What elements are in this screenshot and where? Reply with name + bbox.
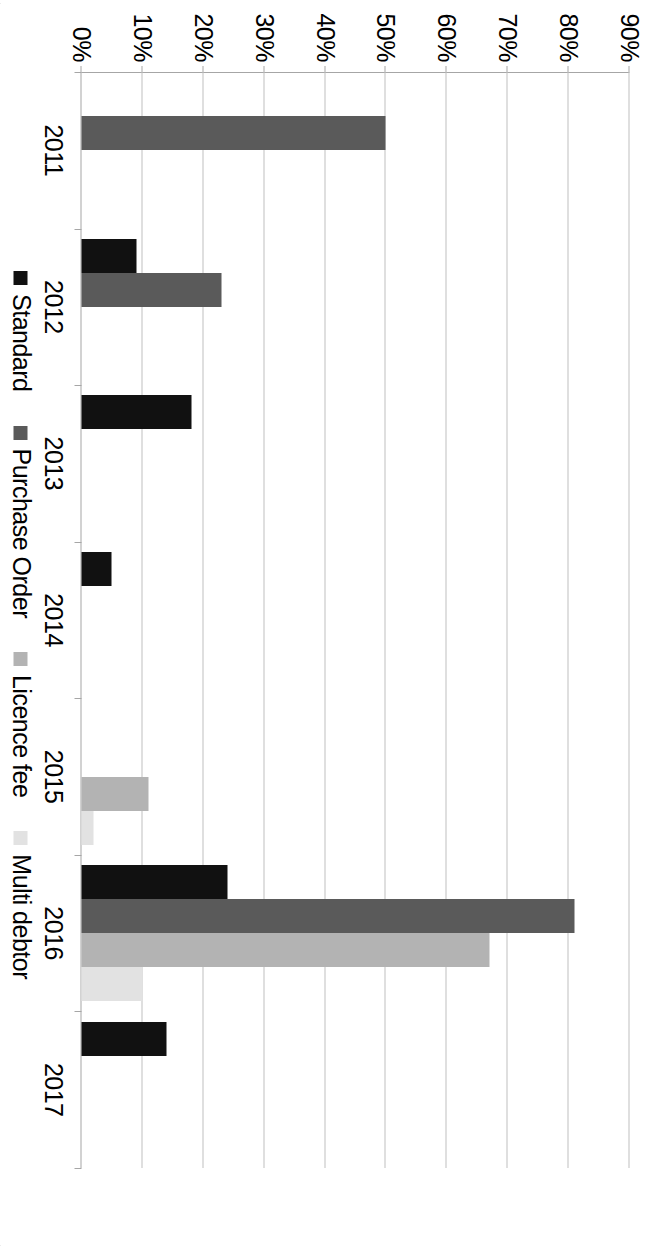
category-axis-tick [74,1168,81,1169]
bar-2011-purchase-order[interactable] [81,116,385,150]
bar-2013-standard[interactable] [81,395,191,429]
legend-item-licence-fee[interactable]: Licence fee [6,652,35,797]
legend-swatch-icon [14,426,28,440]
value-axis-tick-label: 30% [249,13,278,62]
legend-label: Licence fee [6,675,35,797]
category-axis-tick [74,1011,81,1012]
bar-2016-standard[interactable] [81,865,227,899]
category-label-2013: 2013 [38,437,67,491]
bar-2015-multi-debtor[interactable] [81,811,93,845]
bar-group-2015 [81,698,629,855]
value-axis-tick-label: 20% [188,13,217,62]
category-axis-tick [74,229,81,230]
value-axis-tick-label: 50% [371,13,400,62]
category-label-2017: 2017 [38,1063,67,1117]
legend-item-standard[interactable]: Standard [6,271,35,391]
bar-group-2014 [81,542,629,699]
value-axis-tick-label: 70% [493,13,522,62]
plot-area: 90%80%70%60%50%40%30%20%10%0% 2011201220… [81,72,629,1168]
bar-2016-purchase-order[interactable] [81,899,574,933]
legend-item-multi-debtor[interactable]: Multi debtor [6,831,35,979]
category-axis-tick [74,855,81,856]
category-axis-tick [74,698,81,699]
category-axis-tick [74,385,81,386]
bar-2012-purchase-order[interactable] [81,273,221,307]
category-label-2016: 2016 [38,906,67,960]
value-axis-tick-label: 0% [67,27,96,62]
category-axis-tick [74,72,81,73]
legend-label: Multi debtor [6,854,35,979]
bar-group-2013 [81,385,629,542]
category-label-2012: 2012 [38,280,67,334]
category-axis-tick [74,542,81,543]
bar-2016-multi-debtor[interactable] [81,967,142,1001]
bar-chart: 90%80%70%60%50%40%30%20%10%0% 2011201220… [0,0,665,1250]
bar-2015-licence-fee[interactable] [81,777,148,811]
category-label-2015: 2015 [38,750,67,804]
legend-item-purchase-order[interactable]: Purchase Order [6,426,35,618]
bar-group-2016 [81,855,629,1012]
rotated-chart-wrapper: 90%80%70%60%50%40%30%20%10%0% 2011201220… [0,0,665,1250]
legend-swatch-icon [14,652,28,666]
chart-legend: StandardPurchase OrderLicence feeMulti d… [6,0,35,1250]
legend-swatch-icon [14,831,28,845]
bar-2012-standard[interactable] [81,239,136,273]
legend-label: Standard [6,294,35,391]
bar-2017-standard[interactable] [81,1022,166,1056]
value-axis-tick-label: 80% [554,13,583,62]
bar-2014-standard[interactable] [81,552,111,586]
value-axis-tick-label: 10% [127,13,156,62]
category-label-2014: 2014 [38,593,67,647]
value-axis-tick-label: 60% [432,13,461,62]
bar-group-2017 [81,1011,629,1168]
bar-2016-licence-fee[interactable] [81,933,489,967]
legend-swatch-icon [14,271,28,285]
category-label-2011: 2011 [38,124,67,176]
value-axis-tick-label: 40% [310,13,339,62]
value-axis-tick-label: 90% [615,13,644,62]
bar-group-2012 [81,229,629,386]
bar-group-2011 [81,72,629,229]
legend-label: Purchase Order [6,449,35,618]
